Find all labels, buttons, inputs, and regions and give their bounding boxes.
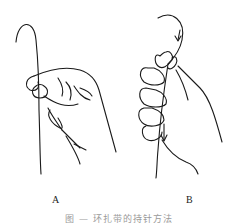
hand-needle-a-illustration bbox=[0, 0, 120, 190]
panel-b bbox=[120, 0, 238, 190]
hand-needle-b-illustration bbox=[120, 0, 238, 190]
panel-a bbox=[0, 0, 120, 190]
panel-label-a: A bbox=[52, 194, 59, 205]
figure-caption: 图 — 环扎带的持针方法 bbox=[0, 212, 238, 223]
figure: A B 图 — 环扎带的持针方法 bbox=[0, 0, 238, 223]
panel-label-b: B bbox=[186, 194, 193, 205]
